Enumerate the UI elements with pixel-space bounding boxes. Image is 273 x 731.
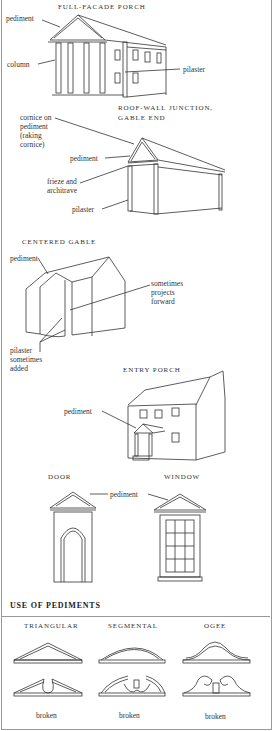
- entry-porch-drawing: [102, 371, 225, 460]
- label-pilaster-2: sometimes: [10, 355, 42, 364]
- segmental-title: SEGMENTAL: [108, 622, 158, 630]
- label-cornice-2: pediment: [20, 122, 48, 131]
- full-facade-porch-drawing: [38, 15, 180, 97]
- label-projects-3: forward: [151, 297, 175, 306]
- label-cornice-1: cornice on: [20, 113, 51, 122]
- section-title: USE OF PEDIMENTS: [10, 601, 101, 610]
- ogee-title: OGEE: [204, 622, 226, 630]
- label-pilaster: pilaster: [72, 205, 94, 214]
- roof-wall-junction-drawing: [55, 118, 225, 214]
- triangular-title: TRIANGULAR: [24, 622, 79, 630]
- use-of-pediments-header: USE OF PEDIMENTS: [2, 596, 270, 617]
- label-projects-1: sometimes: [151, 279, 183, 288]
- label-projects-2: projects: [151, 288, 175, 297]
- ogee-caption: broken: [205, 712, 226, 721]
- label-pediment: pediment: [70, 154, 98, 163]
- label-frieze-1: frieze and: [47, 177, 77, 186]
- door-window-drawing: [50, 492, 206, 582]
- label-cornice-4: cornice): [20, 140, 45, 149]
- triangular-caption: broken: [36, 711, 57, 720]
- label-pediment: pediment: [64, 407, 92, 416]
- label-cornice-3: (raking: [20, 131, 42, 140]
- segmental-caption: broken: [119, 711, 140, 720]
- pediment-types-drawing: [14, 642, 250, 696]
- label-frieze-2: architrave: [47, 186, 77, 195]
- door-title: DOOR: [48, 473, 71, 481]
- roof-wall-junction-title-1: ROOF-WALL JUNCTION,: [118, 104, 213, 112]
- centered-gable-drawing: [26, 257, 150, 352]
- label-pilaster-3: added: [10, 364, 28, 373]
- label-pediment: pediment: [110, 490, 138, 499]
- centered-gable-title: CENTERED GABLE: [22, 238, 96, 246]
- entry-porch-title: ENTRY PORCH: [123, 366, 181, 374]
- label-pediment: pediment: [10, 254, 38, 263]
- label-pilaster-1: pilaster: [10, 346, 32, 355]
- window-title: WINDOW: [164, 473, 200, 481]
- roof-wall-junction-title-2: GABLE END: [118, 114, 166, 122]
